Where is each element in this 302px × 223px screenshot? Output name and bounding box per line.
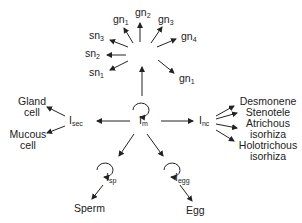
mucous-line2: cell (8, 140, 48, 151)
label-sperm: Sperm (74, 203, 105, 214)
arrow-iegg-to-egg (180, 185, 192, 201)
label-nematocyte-types: Desmonene Stenotele Atrichous isorhiza H… (236, 96, 300, 162)
label-sub: 4 (193, 36, 197, 43)
arrow-sn1 (110, 61, 128, 70)
label-base: gn (158, 13, 170, 25)
label-sn2: sn2 (85, 48, 100, 59)
arrow-gn1-top (124, 28, 133, 43)
label-base: gn (135, 6, 147, 18)
label-sub: 2 (96, 53, 100, 60)
arrow-im-to-iegg (147, 134, 163, 156)
label-sub: nc (202, 120, 209, 127)
arrow-inc-to-atrichous (216, 124, 237, 128)
arrow-inc-to-holotrichous (216, 130, 234, 141)
label-sub: sec (72, 120, 83, 127)
label-sn3: sn3 (89, 30, 104, 41)
node-im: Im (139, 115, 148, 126)
arrow-isp-to-sperm (92, 185, 103, 199)
arrow-gn1-bottom (158, 60, 174, 73)
label-gn2: gn2 (135, 7, 151, 18)
arrow-gn3 (151, 27, 162, 43)
arrow-isec-to-gland (47, 107, 65, 116)
label-sub: 1 (100, 72, 104, 79)
label-sub: m (142, 120, 148, 127)
label-egg: Egg (186, 205, 205, 216)
node-isp: Isp (106, 172, 116, 183)
label-sub: 1 (191, 78, 195, 85)
gland-line2: cell (15, 107, 49, 118)
label-base: gn (181, 30, 193, 42)
label-sub: 3 (170, 19, 174, 26)
node-isec: Isec (69, 115, 83, 126)
label-base: sn (85, 47, 96, 59)
arrow-isec-to-mucous (47, 126, 65, 133)
label-sn1: sn1 (89, 67, 104, 78)
label-base: sn (89, 29, 100, 41)
label-sub: 3 (100, 35, 104, 42)
nematocyte-holotrichous-isorhiza: isorhiza (236, 151, 300, 162)
label-sub: egg (178, 177, 190, 184)
arrow-sn3 (110, 40, 128, 47)
node-iegg: Iegg (175, 172, 190, 183)
label-gn3: gn3 (158, 14, 174, 25)
label-base: gn (179, 72, 191, 84)
arrow-gn4 (157, 39, 176, 47)
node-inc: Inc (199, 115, 209, 126)
label-gn4: gn4 (181, 31, 197, 42)
label-sub: 2 (147, 12, 151, 19)
label-sub: 1 (125, 19, 129, 26)
label-sub: sp (109, 177, 116, 184)
label-gland-cell: Gland cell (15, 96, 49, 118)
label-mucous-cell: Mucous cell (8, 129, 48, 151)
label-base: sn (89, 66, 100, 78)
arrow-im-to-isp (119, 134, 134, 156)
label-gn1-top: gn1 (113, 14, 129, 25)
label-gn1-bottom: gn1 (179, 73, 195, 84)
label-base: gn (113, 13, 125, 25)
